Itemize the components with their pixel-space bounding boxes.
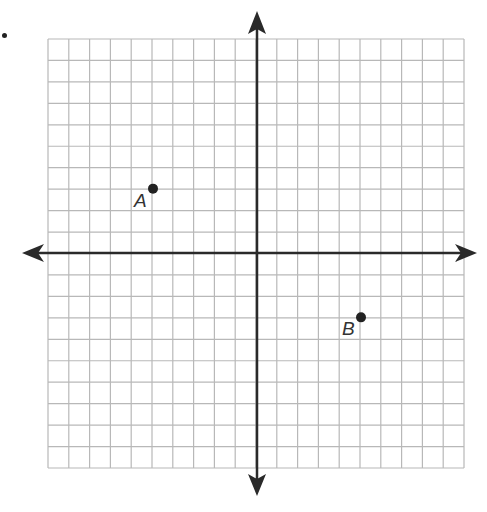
point-b: [356, 312, 366, 322]
point-a-label: A: [134, 190, 147, 212]
point-b-label: B: [342, 318, 355, 340]
point-a: [148, 184, 158, 194]
coordinate-plane: [0, 0, 487, 512]
axes: [22, 11, 477, 496]
